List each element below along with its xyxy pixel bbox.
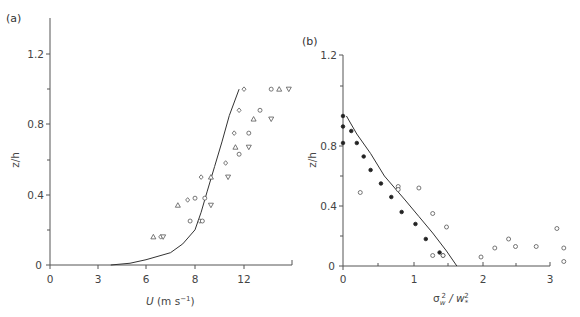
circle-marker — [247, 131, 251, 135]
panel-b-y-ticks: 0 0.4 0.8 1.2 — [320, 49, 343, 272]
filled-circle-marker — [424, 237, 428, 241]
panel-a-xtick-0: 0 — [47, 273, 54, 285]
circle-marker — [493, 246, 497, 250]
filled-circle-marker — [349, 129, 353, 133]
filled-circle-marker — [369, 168, 373, 172]
panel-a-ytick-2: 0.8 — [27, 118, 44, 130]
panel-b-xtick-3: 3 — [547, 273, 554, 285]
panel-b-xtick-1: 1 — [411, 273, 418, 285]
fit-curve — [346, 116, 456, 266]
circle-marker — [479, 255, 483, 259]
panel-b: (b) 0 0.4 0.8 1.2 0 1 2 3 — [302, 35, 566, 307]
panel-b-label: (b) — [302, 35, 318, 48]
panel-a-xtick-4: 12 — [237, 273, 250, 285]
panel-b-xtick-0: 0 — [340, 273, 347, 285]
filled-circle-marker — [341, 114, 345, 118]
filled-circle-marker — [362, 155, 366, 159]
circle-marker — [358, 191, 362, 195]
circle-marker — [514, 245, 518, 249]
fit-curve — [111, 89, 239, 265]
circle-marker — [269, 87, 273, 91]
panel-a-xtick-2: 6 — [143, 273, 150, 285]
panel-b-ytick-3: 1.2 — [320, 49, 337, 61]
panel-a-xtick-1: 3 — [95, 273, 102, 285]
diamond-marker — [186, 198, 190, 203]
triangle-marker — [175, 203, 180, 208]
circle-marker — [417, 186, 421, 190]
triangle-down-marker — [208, 203, 213, 208]
panel-b-ytick-1: 0.4 — [320, 200, 337, 212]
triangle-down-marker — [286, 87, 291, 92]
panel-a-label: (a) — [6, 12, 21, 25]
panel-b-x-label: σw2 / w*2 — [433, 292, 469, 307]
panel-b-plot-area — [341, 114, 566, 266]
panel-a-ytick-3: 1.2 — [27, 48, 44, 60]
filled-circle-marker — [438, 251, 442, 255]
filled-circle-marker — [341, 141, 345, 145]
triangle-down-marker — [269, 117, 274, 122]
circle-marker — [431, 212, 435, 216]
triangle-marker — [151, 234, 156, 239]
panel-b-x-ticks: 0 1 2 3 — [340, 262, 554, 285]
diamond-marker — [232, 131, 236, 136]
diamond-marker — [224, 161, 228, 166]
panel-a-ytick-0: 0 — [35, 259, 42, 271]
filled-circle-marker — [390, 195, 394, 199]
circle-marker — [507, 237, 511, 241]
circle-marker — [431, 254, 435, 258]
panel-a: (a) 0 0.4 0.8 1.2 0 3 6 8 12 — [6, 12, 292, 307]
circle-marker — [188, 219, 192, 223]
circle-marker — [203, 196, 207, 200]
triangle-marker — [233, 145, 238, 150]
circle-marker — [441, 254, 445, 258]
figure: (a) 0 0.4 0.8 1.2 0 3 6 8 12 — [0, 0, 580, 317]
circle-marker — [562, 260, 566, 264]
filled-circle-marker — [414, 222, 418, 226]
diamond-marker — [199, 175, 203, 180]
circle-marker — [258, 108, 262, 112]
diamond-marker — [242, 87, 246, 92]
triangle-marker — [277, 87, 282, 92]
panel-a-y-ticks: 0 0.4 0.8 1.2 — [27, 48, 50, 271]
triangle-marker — [251, 117, 256, 122]
panel-a-xtick-3: 8 — [192, 273, 199, 285]
triangle-down-marker — [226, 175, 231, 180]
circle-marker — [200, 219, 204, 223]
triangle-marker — [208, 175, 213, 180]
circle-marker — [534, 245, 538, 249]
panel-b-ytick-0: 0 — [328, 260, 335, 272]
circle-marker — [555, 227, 559, 231]
panel-a-y-label: z/h — [9, 152, 21, 168]
triangle-down-marker — [246, 145, 251, 150]
circle-marker — [445, 225, 449, 229]
panel-a-x-label: U (m s−1) — [146, 295, 195, 307]
filled-circle-marker — [400, 210, 404, 214]
panel-a-plot-area — [111, 87, 291, 265]
filled-circle-marker — [379, 182, 383, 186]
circle-marker — [562, 246, 566, 250]
filled-circle-marker — [355, 141, 359, 145]
panel-a-x-ticks: 0 3 6 8 12 — [47, 260, 292, 285]
diamond-marker — [237, 108, 241, 113]
circle-marker — [396, 188, 400, 192]
panel-b-xtick-2: 2 — [480, 273, 487, 285]
circle-marker — [193, 196, 197, 200]
panel-b-y-label: z/h — [306, 152, 318, 168]
circle-marker — [237, 152, 241, 156]
panel-a-ytick-1: 0.4 — [27, 189, 44, 201]
filled-circle-marker — [341, 125, 345, 129]
panel-b-ytick-2: 0.8 — [320, 140, 337, 152]
